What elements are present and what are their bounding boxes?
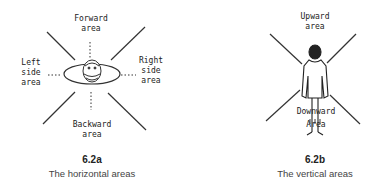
right-label-line2: side <box>134 66 168 76</box>
right-label-line1: Right <box>134 56 168 66</box>
downward-label-line1: Downward <box>290 107 342 117</box>
downward-label-line2: Area <box>290 120 342 130</box>
figure-b-number: 6.2b <box>255 154 375 165</box>
forward-label-line2: area <box>66 24 116 34</box>
head-top-view-icon <box>83 60 101 82</box>
backward-label-line1: Backward <box>62 120 122 130</box>
left-side-area-label: Left side area <box>15 58 47 88</box>
figure-a-caption: The horizontal areas <box>22 168 162 179</box>
backward-area-label: Backward area <box>62 120 122 140</box>
left-label-line3: area <box>15 78 47 88</box>
figure-b-caption: The vertical areas <box>245 168 379 179</box>
left-label-line1: Left <box>15 58 47 68</box>
left-label-line2: side <box>15 68 47 78</box>
upward-area-label: Upward area <box>290 12 340 32</box>
figure-a-number: 6.2a <box>32 154 152 165</box>
right-side-area-label: Right side area <box>134 56 168 86</box>
downward-area-label: Downward Area <box>290 107 342 130</box>
right-label-line3: area <box>134 76 168 86</box>
upward-label-line1: Upward <box>290 12 340 22</box>
forward-area-label: Forward area <box>66 14 116 34</box>
backward-label-line2: area <box>62 130 122 140</box>
upward-label-line2: area <box>290 22 340 32</box>
forward-label-line1: Forward <box>66 14 116 24</box>
